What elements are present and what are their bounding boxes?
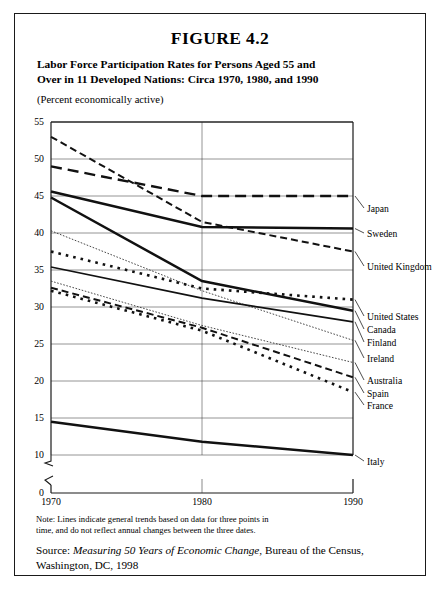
chart-svg bbox=[15, 14, 427, 577]
legend-leader-france bbox=[355, 392, 364, 405]
legend-label-japan: Japan bbox=[367, 204, 389, 214]
legend-label-united-states: United States bbox=[367, 312, 418, 322]
y-tick-label-50: 50 bbox=[26, 154, 44, 164]
chart-plot-area: 101520253035404550550197019801990 United… bbox=[15, 14, 427, 577]
y-tick-label-30: 30 bbox=[26, 302, 44, 312]
source-suffix: , Bureau of the Census, bbox=[259, 544, 363, 556]
legend-label-france: France bbox=[367, 401, 393, 411]
legend-label-finland: Finland bbox=[367, 338, 396, 348]
source-publication-title: Measuring 50 Years of Economic Change bbox=[73, 544, 259, 556]
legend-label-ireland: Ireland bbox=[367, 354, 394, 364]
chart-note-line-2: time, and do not reflect annual changes … bbox=[36, 525, 376, 536]
chart-note: Note: Lines indicate general trends base… bbox=[36, 514, 376, 536]
y-tick-label-15: 15 bbox=[26, 413, 44, 423]
x-tick-label-1970: 1970 bbox=[31, 497, 71, 507]
legend-label-canada: Canada bbox=[367, 325, 396, 335]
legend-label-united-kingdom: United Kingdom bbox=[367, 262, 432, 272]
legend-leader-italy bbox=[355, 455, 364, 461]
y-tick-label-40: 40 bbox=[26, 228, 44, 238]
legend-label-spain: Spain bbox=[367, 389, 389, 399]
legend-leader-japan bbox=[355, 196, 364, 208]
y-tick-label-45: 45 bbox=[26, 191, 44, 201]
y-tick-label-10: 10 bbox=[26, 450, 44, 460]
legend-label-australia: Australia bbox=[367, 376, 402, 386]
chart-source-line-1: Source: Measuring 50 Years of Economic C… bbox=[36, 543, 406, 558]
chart-note-line-1: Note: Lines indicate general trends base… bbox=[36, 514, 376, 525]
y-tick-label-35: 35 bbox=[26, 265, 44, 275]
legend-leader-australia bbox=[355, 363, 364, 381]
legend-leader-united-kingdom bbox=[355, 252, 364, 267]
legend-leader-finland bbox=[355, 322, 364, 342]
figure-frame: FIGURE 4.2 Labor Force Participation Rat… bbox=[14, 13, 426, 576]
legend-label-sweden: Sweden bbox=[367, 229, 397, 239]
legend-label-italy: Italy bbox=[367, 457, 385, 467]
y-tick-label-55: 55 bbox=[26, 117, 44, 127]
source-prefix: Source: bbox=[36, 544, 73, 556]
x-tick-label-1980: 1980 bbox=[182, 497, 222, 507]
legend-leader-sweden bbox=[355, 229, 364, 233]
chart-source: Source: Measuring 50 Years of Economic C… bbox=[36, 543, 406, 572]
y-tick-label-20: 20 bbox=[26, 376, 44, 386]
legend-leader-ireland bbox=[355, 340, 364, 358]
chart-source-line-2: Washington, DC, 1998 bbox=[36, 558, 406, 573]
y-tick-label-25: 25 bbox=[26, 339, 44, 349]
x-tick-label-1990: 1990 bbox=[333, 497, 373, 507]
axis-break-mark-upper bbox=[45, 455, 53, 466]
axis-break-mark-lower bbox=[45, 476, 53, 485]
legend-leader-spain bbox=[355, 377, 364, 393]
